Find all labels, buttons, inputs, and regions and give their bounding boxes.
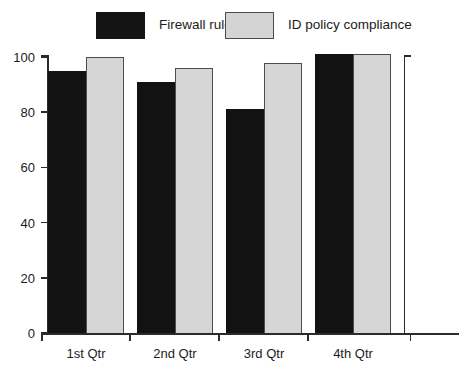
bar	[86, 57, 124, 333]
plot-area: 020406080100 1st Qtr2nd Qtr3rd Qtr4th Qt…	[48, 57, 404, 333]
y-axis-tick-label: 100	[13, 51, 35, 64]
legend-entry-firewall-rules: Firewall rules	[96, 11, 239, 39]
y-axis-tick: 100	[41, 56, 48, 58]
x-axis-tick-label: 3rd Qtr	[244, 347, 284, 360]
x-axis-tick	[129, 333, 131, 341]
right-axis-top-cap	[404, 55, 411, 57]
legend-swatch-dark-icon	[96, 12, 145, 39]
y-axis-tick-label: 20	[21, 271, 35, 284]
y-axis-tick: 80	[41, 111, 48, 113]
right-axis-line	[404, 55, 406, 335]
y-axis-tick-label: 40	[21, 216, 35, 229]
bar	[315, 54, 353, 333]
legend-entry-id-policy-compliance: ID policy compliance	[225, 11, 412, 39]
x-axis-tick	[307, 333, 309, 341]
y-axis-tick: 40	[41, 222, 48, 224]
x-axis-tick-label: 4th Qtr	[333, 347, 373, 360]
legend-label-id-policy-compliance: ID policy compliance	[288, 18, 412, 32]
y-axis-tick-label: 80	[21, 106, 35, 119]
y-axis-tick-label: 60	[21, 161, 35, 174]
x-axis-line	[41, 333, 459, 335]
bar	[226, 109, 264, 333]
bar	[137, 82, 175, 333]
y-axis-tick: 0	[41, 332, 48, 334]
y-axis-foot	[41, 333, 43, 341]
bar	[353, 54, 391, 333]
right-axis-foot	[410, 333, 412, 341]
y-axis-tick-label: 0	[28, 327, 35, 340]
bar-group	[137, 57, 213, 333]
legend-swatch-light-icon	[225, 12, 274, 39]
bar-group	[226, 57, 302, 333]
bar-group	[48, 57, 124, 333]
y-axis-tick: 60	[41, 167, 48, 169]
x-axis-tick	[218, 333, 220, 341]
chart-legend: Firewall rules ID policy compliance	[0, 0, 426, 48]
x-axis-tick-label: 2nd Qtr	[153, 347, 196, 360]
bar	[264, 63, 302, 333]
bar	[175, 68, 213, 333]
x-axis-tick-label: 1st Qtr	[66, 347, 105, 360]
y-axis-tick: 20	[41, 277, 48, 279]
bar-group	[315, 57, 391, 333]
bar	[48, 71, 86, 333]
